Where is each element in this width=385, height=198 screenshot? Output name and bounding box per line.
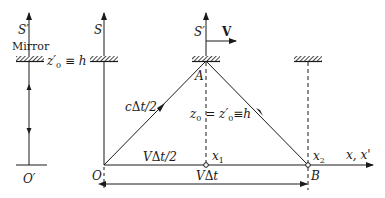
light-clock-diagram: S′ Mirror z′0 ≡ h O′ S S′ V A xyxy=(0,0,385,198)
point-b-label: B xyxy=(310,169,320,183)
mirror-end xyxy=(294,56,322,61)
left-s-prime-label: S′ xyxy=(18,23,29,37)
point-x1-marker xyxy=(204,163,209,168)
s-prime-axis-label: S′ xyxy=(194,25,205,39)
down-arrowhead-icon xyxy=(27,128,32,134)
x-axis-label: x, x' xyxy=(346,148,370,162)
main-frame: S S′ V A cΔt/2 z0 = z′0≡h x, x' O VΔt/2 … xyxy=(90,13,373,190)
point-b-marker xyxy=(306,163,311,168)
origin-label: O xyxy=(92,169,102,183)
s-axis-label: S xyxy=(94,23,102,37)
velocity-label: V xyxy=(221,25,232,39)
mirror-middle xyxy=(192,56,220,61)
left-mirror xyxy=(16,56,44,61)
left-height-label: z′0 ≡ h xyxy=(46,54,87,70)
light-down-arrowhead-icon xyxy=(256,108,263,116)
full-distance-label: VΔt xyxy=(196,169,218,183)
light-path-label: cΔt/2 xyxy=(125,100,157,114)
height-equation-label: z0 = z′0≡h xyxy=(189,107,251,123)
left-origin-label: O′ xyxy=(23,172,36,186)
x1-label: x1 xyxy=(212,149,224,165)
left-frame: S′ Mirror z′0 ≡ h O′ xyxy=(12,13,87,186)
x2-label: x2 xyxy=(313,149,325,165)
mirror-label: Mirror xyxy=(12,40,50,53)
up-arrowhead-icon xyxy=(27,84,32,90)
light-up-arrowhead-icon xyxy=(157,103,165,112)
mirror-start xyxy=(90,56,118,61)
half-distance-label: VΔt/2 xyxy=(143,150,177,164)
